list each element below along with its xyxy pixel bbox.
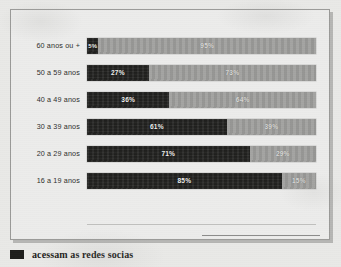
bar-segment-dark: 5%: [87, 38, 98, 54]
stacked-bar-plot-area: 60 anos ou + 5% 95% 50 a 59 anos 27% 73%: [11, 32, 329, 239]
bar-row: 60 anos ou + 5% 95%: [11, 32, 329, 59]
chart-panel: 60 anos ou + 5% 95% 50 a 59 anos 27% 73%: [10, 9, 330, 240]
scan-bleed-through-text: [37, 17, 315, 33]
bar-segment-value: 95%: [200, 42, 214, 49]
bar-segment-value: 73%: [226, 69, 240, 76]
bar-segment-value: 61%: [150, 123, 164, 130]
bar-segment-value: 39%: [264, 123, 278, 130]
bar-segment-light: 15%: [282, 173, 316, 189]
category-label: 16 a 19 anos: [11, 176, 87, 185]
bar-row: 20 a 29 anos 71% 29%: [11, 140, 329, 167]
bar-segment-value: 85%: [177, 177, 191, 184]
category-label: 50 a 59 anos: [11, 68, 87, 77]
bar-segment-light: 39%: [227, 119, 316, 135]
bar-segment-dark: 27%: [87, 65, 149, 81]
category-label: 40 a 49 anos: [11, 95, 87, 104]
bar-segment-light: 29%: [250, 146, 316, 162]
bar-row: 16 a 19 anos 85% 15%: [11, 167, 329, 194]
bar-segment-dark: 85%: [87, 173, 282, 189]
bar-segment-value: 64%: [236, 96, 250, 103]
bar-segment-value: 5%: [88, 43, 97, 49]
bar-segment-dark: 61%: [87, 119, 227, 135]
bar-row: 40 a 49 anos 36% 64%: [11, 86, 329, 113]
bar-track: 27% 73%: [87, 65, 316, 81]
axis-baseline: [87, 224, 316, 225]
bar-track: 61% 39%: [87, 119, 316, 135]
scan-artifact-rule: [202, 235, 320, 236]
bar-segment-value: 71%: [161, 150, 175, 157]
bar-row: 30 a 39 anos 61% 39%: [11, 113, 329, 140]
bar-track: 71% 29%: [87, 146, 316, 162]
bar-row: 50 a 59 anos 27% 73%: [11, 59, 329, 86]
bar-segment-value: 36%: [121, 96, 135, 103]
bar-segment-light: 95%: [98, 38, 316, 54]
legend-swatch-dark: [10, 250, 24, 259]
bar-track: 5% 95%: [87, 38, 316, 54]
category-label: 60 anos ou +: [11, 41, 87, 50]
bar-track: 36% 64%: [87, 92, 316, 108]
category-label: 20 a 29 anos: [11, 149, 87, 158]
bar-segment-value: 27%: [111, 69, 125, 76]
bar-segment-light: 73%: [149, 65, 316, 81]
bar-track: 85% 15%: [87, 173, 316, 189]
bar-segment-value: 29%: [276, 150, 290, 157]
bar-segment-light: 64%: [169, 92, 316, 108]
legend-label: acessam as redes socias: [32, 249, 133, 260]
bar-segment-value: 15%: [292, 177, 306, 184]
bar-segment-dark: 36%: [87, 92, 169, 108]
category-label: 30 a 39 anos: [11, 122, 87, 131]
chart-legend: acessam as redes socias: [10, 249, 133, 260]
bar-segment-dark: 71%: [87, 146, 250, 162]
